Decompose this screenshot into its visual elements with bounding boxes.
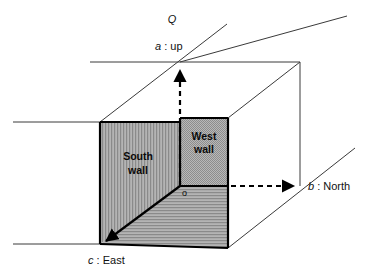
- south-wall-label-line1: South: [123, 150, 153, 162]
- south-wall-label-line2: wall: [127, 164, 148, 176]
- axis-a-separator: :: [161, 40, 170, 52]
- corner-cube-diagram: Q a : up b : North c : East South wall W…: [0, 0, 369, 276]
- axis-label-a-up: a : up: [155, 40, 183, 52]
- axis-c-separator: :: [94, 254, 103, 266]
- axis-label-c-east: c : East: [88, 254, 125, 266]
- diagonal-upper-left: [100, 24, 227, 122]
- origin-label: o: [182, 188, 187, 198]
- axis-b-separator: :: [314, 180, 323, 192]
- diagonal-lower-right: [228, 148, 355, 248]
- diagonal-upper-right: [180, 16, 347, 62]
- axis-label-b-north: b : North: [308, 180, 350, 192]
- axis-c-name: East: [103, 254, 125, 266]
- axis-a-name: up: [170, 40, 182, 52]
- axis-b-name: North: [323, 180, 350, 192]
- west-wall-label-line1: West: [192, 130, 217, 142]
- west-wall-label-line2: wall: [193, 143, 214, 155]
- diagonal-west-top: [228, 62, 300, 118]
- figure-symbol-Q: Q: [168, 13, 177, 25]
- figure-canvas: Q a : up b : North c : East South wall W…: [0, 0, 369, 276]
